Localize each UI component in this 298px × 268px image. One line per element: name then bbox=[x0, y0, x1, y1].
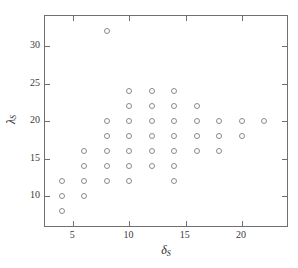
data-point bbox=[81, 163, 87, 169]
y-axis-tick-mark bbox=[282, 84, 287, 85]
y-axis-label: λS bbox=[4, 100, 19, 140]
data-point bbox=[104, 163, 110, 169]
data-point bbox=[171, 163, 177, 169]
data-point bbox=[126, 163, 132, 169]
data-point bbox=[171, 88, 177, 94]
data-point bbox=[126, 133, 132, 139]
data-point bbox=[126, 178, 132, 184]
data-point bbox=[104, 148, 110, 154]
data-point bbox=[104, 178, 110, 184]
data-point bbox=[149, 103, 155, 109]
y-axis-tick-mark bbox=[282, 196, 287, 197]
data-point bbox=[194, 148, 200, 154]
data-point bbox=[126, 103, 132, 109]
x-axis-label-subscript: S bbox=[167, 249, 171, 258]
x-axis-tick-mark bbox=[242, 16, 243, 21]
x-axis-tick-mark bbox=[129, 16, 130, 21]
data-point bbox=[194, 103, 200, 109]
x-axis-tick-mark bbox=[129, 221, 130, 226]
data-point bbox=[261, 118, 267, 124]
plot-frame bbox=[44, 15, 288, 227]
data-point bbox=[171, 148, 177, 154]
data-point bbox=[59, 178, 65, 184]
data-point bbox=[149, 148, 155, 154]
data-point bbox=[59, 193, 65, 199]
y-axis-tick-mark bbox=[45, 121, 50, 122]
x-axis-tick-label: 10 bbox=[113, 229, 143, 240]
x-axis-label: δS bbox=[44, 243, 288, 258]
y-axis-tick-mark bbox=[282, 46, 287, 47]
data-point bbox=[81, 193, 87, 199]
y-axis-tick-label: 30 bbox=[14, 39, 40, 50]
data-point bbox=[171, 103, 177, 109]
data-point bbox=[104, 118, 110, 124]
data-point bbox=[216, 148, 222, 154]
y-axis-tick-mark bbox=[45, 84, 50, 85]
y-axis-tick-mark bbox=[45, 196, 50, 197]
x-axis-tick-mark bbox=[242, 221, 243, 226]
data-point bbox=[126, 88, 132, 94]
data-point bbox=[126, 118, 132, 124]
data-point bbox=[104, 133, 110, 139]
data-point bbox=[104, 28, 110, 34]
y-axis-tick-mark bbox=[282, 121, 287, 122]
x-axis-tick-label: 15 bbox=[170, 229, 200, 240]
data-point bbox=[171, 118, 177, 124]
x-axis-tick-mark bbox=[73, 16, 74, 21]
data-point bbox=[81, 178, 87, 184]
data-point bbox=[194, 118, 200, 124]
data-point bbox=[59, 208, 65, 214]
y-axis-tick-mark bbox=[282, 159, 287, 160]
y-axis-label-symbol: λ bbox=[4, 119, 18, 124]
y-axis-tick-label: 10 bbox=[14, 189, 40, 200]
y-axis-tick-label: 15 bbox=[14, 152, 40, 163]
x-axis-tick-mark bbox=[186, 16, 187, 21]
y-axis-label-subscript: S bbox=[9, 115, 18, 119]
y-axis-tick-mark bbox=[45, 46, 50, 47]
y-axis-tick-mark bbox=[45, 159, 50, 160]
data-point bbox=[149, 163, 155, 169]
data-point bbox=[171, 133, 177, 139]
x-axis-tick-mark bbox=[186, 221, 187, 226]
data-point bbox=[171, 178, 177, 184]
data-point bbox=[239, 133, 245, 139]
y-axis-tick-label: 25 bbox=[14, 77, 40, 88]
scatter-plot-figure: 51015201015202530 δS λS bbox=[0, 0, 298, 268]
data-point bbox=[149, 133, 155, 139]
x-axis-tick-mark bbox=[73, 221, 74, 226]
data-series-layer bbox=[45, 16, 287, 226]
data-point bbox=[239, 118, 245, 124]
data-point bbox=[149, 88, 155, 94]
data-point bbox=[194, 133, 200, 139]
data-point bbox=[216, 118, 222, 124]
data-point bbox=[81, 148, 87, 154]
x-axis-tick-label: 20 bbox=[226, 229, 256, 240]
x-axis-tick-label: 5 bbox=[57, 229, 87, 240]
data-point bbox=[149, 118, 155, 124]
data-point bbox=[216, 133, 222, 139]
data-point bbox=[126, 148, 132, 154]
